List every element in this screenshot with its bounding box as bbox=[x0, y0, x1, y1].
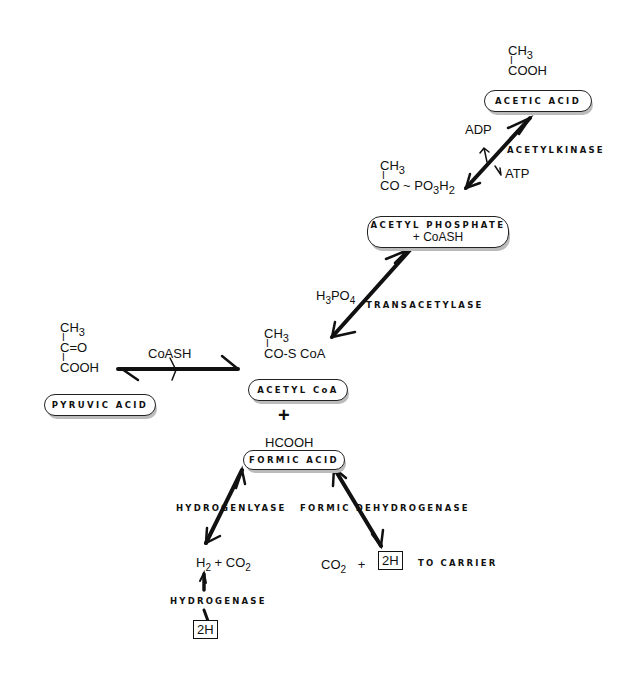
acetyl-coa-cloud: ACETYL CoA bbox=[248, 379, 348, 401]
compound-label: ACETIC ACID bbox=[495, 96, 581, 106]
formula-line: CH3 bbox=[508, 45, 547, 57]
2h-box-carrier: 2H bbox=[378, 551, 403, 570]
compound-label-2: + CoASH bbox=[413, 230, 463, 244]
compound-label: ACETYL PHOSPHATE bbox=[371, 220, 506, 230]
enzyme-formic-dehydrogenase: FORMIC DEHYDROGENASE bbox=[300, 503, 470, 513]
formula-line: C=O bbox=[60, 342, 99, 354]
formula-line: CO ~ PO3H2 bbox=[380, 180, 455, 192]
enzyme-hydrogenase: HYDROGENASE bbox=[170, 596, 267, 606]
co-symbol: CO bbox=[321, 557, 341, 572]
enzyme-transacetylase: TRANSACETYLASE bbox=[366, 300, 483, 310]
pyruvic-acid-formula: CH3 I C=O I COOH bbox=[60, 322, 99, 374]
formula-line: COOH bbox=[60, 362, 99, 374]
formula-line: CO-S CoA bbox=[264, 348, 325, 360]
acetyl-phosphate-formula: CH3 I CO ~ PO3H2 bbox=[380, 160, 455, 192]
formula-line: CH3 bbox=[264, 328, 325, 340]
coash-label: CoASH bbox=[148, 346, 191, 361]
acetic-acid-formula: CH3 I COOH bbox=[508, 45, 547, 77]
compound-label: PYRUVIC ACID bbox=[52, 400, 149, 410]
acetyl-coa-formula: CH3 I CO-S CoA bbox=[264, 328, 325, 360]
formula-line: CH3 bbox=[380, 160, 455, 172]
h-symbol: H bbox=[196, 555, 205, 570]
acetyl-phosphate-cloud: ACETYL PHOSPHATE + CoASH bbox=[367, 216, 509, 248]
2h-box-hydrogenase: 2H bbox=[193, 620, 218, 639]
enzyme-acetylkinase: ACETYLKINASE bbox=[507, 145, 605, 155]
plus: + bbox=[358, 557, 366, 572]
formula-line: COOH bbox=[508, 65, 547, 77]
subscript: 2 bbox=[245, 562, 251, 573]
h3po4-label: H3PO4 bbox=[316, 288, 355, 306]
enzyme-hydrogenlyase: HYDROGENLYASE bbox=[176, 503, 287, 513]
to-carrier-label: TO CARRIER bbox=[418, 558, 497, 568]
atp-label: ATP bbox=[505, 166, 529, 181]
co2-product: CO2 + bbox=[321, 557, 365, 575]
compound-label: FORMIC ACID bbox=[249, 455, 339, 465]
h2-co2-products: H2 + CO2 bbox=[196, 555, 251, 573]
acetic-acid-cloud: ACETIC ACID bbox=[484, 90, 592, 112]
adp-label: ADP bbox=[465, 122, 492, 137]
subscript: 2 bbox=[341, 564, 347, 575]
plus: + bbox=[215, 555, 223, 570]
pyruvic-acid-cloud: PYRUVIC ACID bbox=[44, 394, 156, 416]
formic-acid-formula: HCOOH bbox=[265, 435, 313, 450]
formic-acid-cloud: FORMIC ACID bbox=[243, 450, 345, 470]
subscript: 2 bbox=[205, 562, 211, 573]
co-symbol: CO bbox=[226, 555, 246, 570]
formula-line: CH3 bbox=[60, 322, 99, 334]
compound-label: ACETYL CoA bbox=[257, 385, 339, 395]
plus-sign: + bbox=[278, 404, 290, 427]
